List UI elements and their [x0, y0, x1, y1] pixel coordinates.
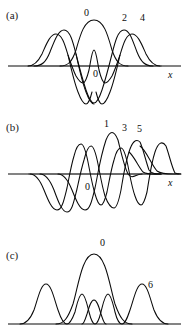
panel-a-label-n2: 2	[122, 13, 127, 23]
panel-a-label-n4: 4	[140, 13, 145, 23]
panel-a-label-n0-top: 0	[84, 8, 89, 18]
panel-b: (b) 1 3 5 0 x	[0, 112, 189, 224]
panel-b-label-n3: 3	[122, 123, 127, 133]
curve-c-n6-inner-lobes	[82, 300, 106, 324]
figure-harmonic-oscillator: (a) 0 2 4 0 x (b) 1 3 5 0 x	[0, 0, 189, 330]
panel-b-axis-label: x	[168, 178, 172, 188]
panel-a-plot	[0, 0, 189, 112]
curve-c-n6	[20, 284, 168, 324]
panel-a-label-origin: 0	[93, 69, 98, 79]
panel-a: (a) 0 2 4 0 x	[0, 0, 189, 112]
panel-a-tag: (a)	[6, 10, 18, 21]
curve-c-n0	[56, 254, 132, 324]
panel-c-plot	[0, 224, 189, 330]
panel-b-tag: (b)	[6, 122, 19, 133]
panel-b-label-n5: 5	[137, 124, 142, 134]
curve-b-n3	[40, 140, 161, 212]
curve-a-n0	[60, 20, 128, 66]
panel-b-label-origin: 0	[85, 182, 90, 192]
curve-b-n5	[30, 143, 181, 210]
panel-c: (c) 0 6	[0, 224, 189, 330]
panel-c-label-n0: 0	[100, 238, 105, 248]
panel-a-axis-label: x	[168, 70, 172, 80]
panel-c-tag: (c)	[6, 250, 18, 261]
panel-b-plot	[0, 112, 189, 224]
curve-a-n2-negative-left	[76, 54, 94, 104]
panel-b-label-n1: 1	[104, 119, 109, 129]
panel-c-label-n6: 6	[148, 280, 153, 290]
